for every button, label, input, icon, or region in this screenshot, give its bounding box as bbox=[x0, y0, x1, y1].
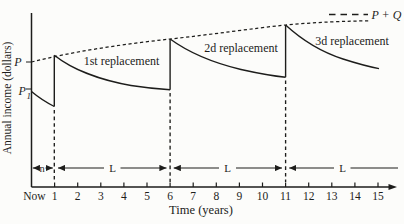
x-tick-label-15: 15 bbox=[372, 190, 384, 202]
third-replacement-label: 3d replacement bbox=[315, 34, 389, 48]
x-tick-label-10: 10 bbox=[257, 190, 269, 202]
x-tick-label-12: 12 bbox=[303, 190, 315, 202]
x-tick-label-3: 3 bbox=[98, 190, 104, 202]
y-axis-title: Annual income (dollars) bbox=[1, 42, 14, 155]
replacement-income-figure: Annual income (dollars) Time (years) P P… bbox=[0, 0, 404, 224]
legend-label-p-plus-q: P + Q bbox=[371, 8, 402, 22]
x-tick-label-5: 5 bbox=[144, 190, 150, 202]
figure-canvas: Annual income (dollars) Time (years) P P… bbox=[0, 0, 404, 224]
second-replacement-label: 2d replacement bbox=[204, 41, 278, 55]
original-asset-curve bbox=[32, 92, 55, 107]
x-tick-label-4: 4 bbox=[121, 190, 127, 202]
n-interval-label: n bbox=[40, 163, 46, 174]
x-tick-label-11: 11 bbox=[280, 190, 291, 202]
y-axis-ticks bbox=[26, 62, 32, 89]
l3-interval-label: L bbox=[339, 162, 346, 174]
x-axis-arrowhead-icon bbox=[389, 184, 398, 190]
x-tick-label-6: 6 bbox=[167, 190, 173, 202]
first-replacement-label: 1st replacement bbox=[84, 54, 160, 68]
l1-interval-label: L bbox=[109, 162, 116, 174]
p1-subscript: 1 bbox=[27, 91, 32, 101]
x-tick-label-14: 14 bbox=[349, 190, 361, 202]
x-tick-label-7: 7 bbox=[190, 190, 196, 202]
p-value-label: P bbox=[13, 55, 22, 69]
x-tick-label-1: 1 bbox=[52, 190, 58, 202]
l2-interval-label: L bbox=[224, 162, 231, 174]
x-tick-label-now: Now bbox=[23, 190, 46, 202]
x-tick-label-2: 2 bbox=[75, 190, 81, 202]
x-tick-label-9: 9 bbox=[237, 190, 243, 202]
p1-value-label: P bbox=[18, 84, 27, 98]
x-tick-label-8: 8 bbox=[213, 190, 219, 202]
x-tick-label-13: 13 bbox=[326, 190, 338, 202]
x-axis-title: Time (years) bbox=[169, 203, 233, 217]
